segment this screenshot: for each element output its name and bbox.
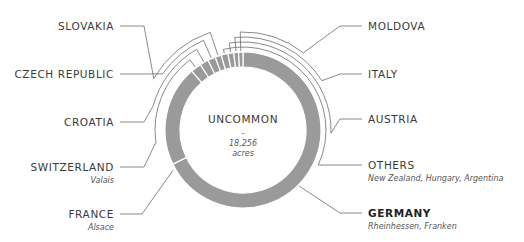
donut-chart: SLOVAKIACZECH REPUBLICCROATIASWITZERLAND… — [0, 0, 524, 242]
label-france: FRANCE — [68, 208, 114, 220]
label-italy: ITALY — [368, 68, 398, 80]
leader-germany — [299, 186, 362, 213]
label-switzerland: SWITZERLAND — [31, 161, 115, 173]
label-others: OTHERS — [368, 159, 415, 171]
center-dash: – — [241, 129, 245, 138]
sublabel-germany: Rheinhessen, Franken — [368, 222, 457, 231]
sublabel-switzerland: Valais — [91, 176, 114, 185]
segment-moldova — [239, 52, 243, 67]
label-slovakia: SLOVAKIA — [58, 20, 114, 32]
label-germany: GERMANY — [368, 207, 431, 219]
sublabel-france: Alsace — [87, 223, 114, 232]
center-value: 18,256 — [229, 139, 257, 148]
label-czech-republic: CZECH REPUBLIC — [14, 68, 114, 80]
label-austria: AUSTRIA — [368, 113, 418, 125]
segment-france — [165, 71, 202, 164]
label-moldova: MOLDOVA — [368, 20, 425, 32]
center-label: UNCOMMON – 18,256 acres — [208, 113, 278, 158]
label-croatia: CROATIA — [64, 116, 114, 128]
center-unit: acres — [232, 149, 254, 158]
center-title: UNCOMMON — [208, 113, 278, 125]
sublabel-others: New Zealand, Hungary, Argentina — [368, 174, 504, 183]
leader-france — [120, 171, 173, 215]
